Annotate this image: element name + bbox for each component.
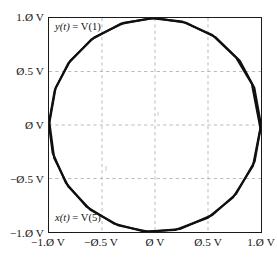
- annotation-y-signal: y(t) = V(1): [55, 21, 101, 32]
- plot-canvas: [49, 18, 261, 232]
- x-tick-label-1v: 1.Ø V: [247, 236, 275, 248]
- y-tick-label-0v: Ø V: [25, 119, 48, 131]
- plot-frame: [48, 17, 262, 233]
- y-tick-label-1v: 1.Ø V: [16, 11, 48, 23]
- annotation-x-signal: x(t) = V(5): [55, 212, 101, 223]
- xy-plot-figure: 1.Ø V Ø.5 V Ø V −Ø.5 V −1.Ø V −1.Ø V −Ø.…: [0, 0, 277, 258]
- x-tick-label-0p5v: Ø.5 V: [194, 236, 222, 248]
- annotation-y-arg: (t): [60, 21, 70, 32]
- x-tick-label-0v: Ø V: [145, 236, 164, 248]
- scan-speckle: [105, 166, 107, 171]
- x-tick-label-neg1v: −1.Ø V: [31, 236, 65, 248]
- y-tick-label-0p5v: Ø.5 V: [16, 65, 48, 77]
- annotation-x-eq: = V(5): [70, 212, 101, 223]
- y-tick-label-neg0p5v: −Ø.5 V: [10, 173, 48, 185]
- annotation-x-arg: (t): [60, 212, 70, 223]
- annotation-y-eq: = V(1): [70, 21, 101, 32]
- x-tick-label-neg0p5v: −Ø.5 V: [84, 236, 118, 248]
- scan-speckle: [157, 112, 159, 116]
